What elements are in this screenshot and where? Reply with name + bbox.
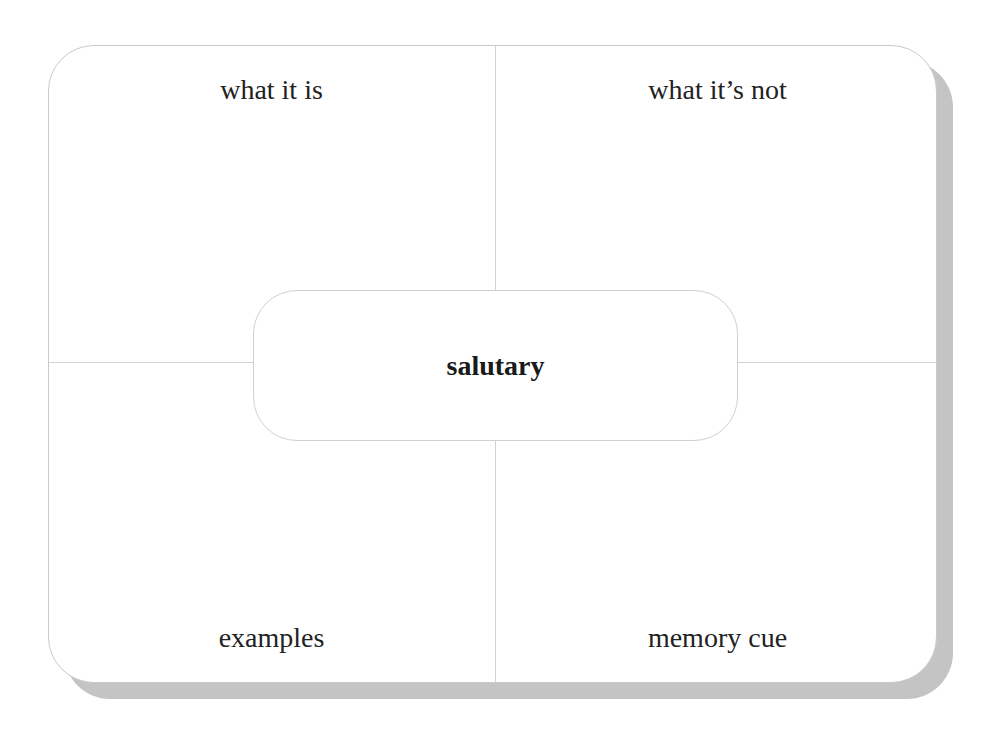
quadrant-label-memory-cue: memory cue — [495, 624, 940, 652]
quadrant-label-what-it-is: what it is — [49, 76, 494, 104]
center-term-box: salutary — [253, 290, 738, 441]
quadrant-label-what-its-not: what it’s not — [495, 76, 940, 104]
center-term: salutary — [447, 352, 545, 380]
frayer-card: what it is what it’s not examples memory… — [48, 45, 937, 683]
quadrant-label-examples: examples — [49, 624, 494, 652]
